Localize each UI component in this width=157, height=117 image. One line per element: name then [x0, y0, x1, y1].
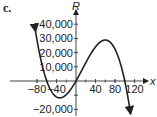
x-tick-label: −80: [28, 83, 47, 95]
chart: c. −80−404080120 −20,00010,00020,00030,0…: [0, 0, 157, 117]
x-tick-label: 40: [89, 83, 101, 95]
y-ticks: −20,00010,00020,00030,00040,000: [33, 18, 78, 115]
y-tick-label: 20,000: [39, 47, 73, 59]
y-tick-label: 30,000: [39, 32, 73, 44]
x-tick-label: 120: [125, 83, 143, 95]
y-tick-label: −20,000: [33, 103, 73, 115]
y-axis-label: R: [72, 0, 80, 12]
x-tick-label: 80: [109, 83, 121, 95]
part-label: c.: [3, 1, 11, 15]
x-axis-label: x: [149, 75, 156, 87]
y-tick-label: 40,000: [39, 18, 73, 30]
